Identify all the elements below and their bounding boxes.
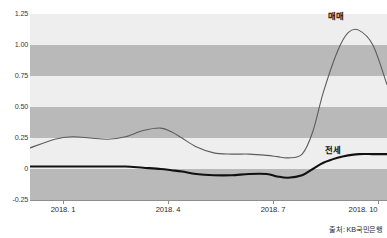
y-tick-1-25: 1.25 <box>15 10 28 18</box>
x-tick-mark-jul <box>273 200 274 204</box>
x-tick-label-apr: 2018. 4 <box>156 205 181 214</box>
x-tick-mark-oct <box>378 200 379 204</box>
y-axis-labels: 1.25 1.00 0.75 0.50 0.25 0 -0.25 <box>0 0 30 214</box>
series-label-jeonse: 전세 <box>325 143 340 155</box>
line-jeonse <box>30 154 387 178</box>
chart-container: 1.25 1.00 0.75 0.50 0.25 0 -0.25 2018. 1… <box>0 0 387 238</box>
x-tick-label-jan: 2018. 1 <box>51 205 76 214</box>
y-tick-0-50: 0.50 <box>15 103 28 111</box>
x-axis-line <box>30 200 387 201</box>
line-maemae <box>30 29 387 158</box>
y-tick-neg-0-25: -0.25 <box>13 196 28 204</box>
y-tick-0-25: 0.25 <box>15 134 28 142</box>
source-note: 출처: KB국민은행 <box>329 224 383 234</box>
y-tick-0: 0 <box>24 165 28 173</box>
x-tick-label-oct: 2018. 10 <box>349 205 378 214</box>
x-tick-label-jul: 2018. 7 <box>261 205 286 214</box>
series-lines <box>30 14 387 200</box>
series-label-maemae: 매매 <box>328 9 343 21</box>
plot-area <box>30 14 387 200</box>
x-tick-mark-apr <box>168 200 169 204</box>
y-tick-0-75: 0.75 <box>15 72 28 80</box>
y-tick-1-00: 1.00 <box>15 41 28 49</box>
x-tick-mark-jan <box>63 200 64 204</box>
